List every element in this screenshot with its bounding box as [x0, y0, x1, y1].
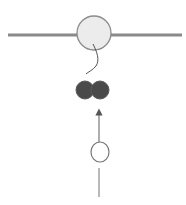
diagram-svg	[0, 0, 186, 205]
diagram-canvas	[0, 0, 186, 205]
dark-circle-right	[91, 81, 109, 99]
small-open-circle	[91, 142, 109, 162]
large-circle	[77, 16, 111, 50]
